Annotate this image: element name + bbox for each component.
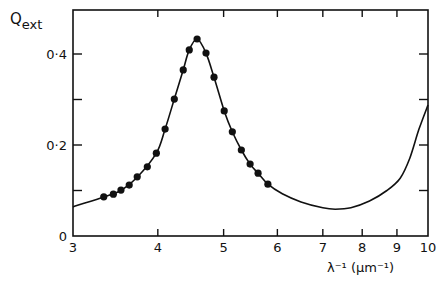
data-point [100, 193, 107, 200]
axis-ticks [73, 10, 428, 236]
y-tick-label: 0·2 [46, 138, 67, 153]
data-point [134, 173, 141, 180]
y-tick-labels: 00·20·4 [46, 47, 67, 244]
data-point [144, 163, 151, 170]
data-point [171, 95, 178, 102]
x-tick-label: 8 [358, 240, 366, 255]
x-axis-label: λ⁻¹ (μm⁻¹) [327, 260, 394, 275]
data-point [194, 35, 201, 42]
data-point [229, 128, 236, 135]
plot-frame [73, 10, 428, 236]
data-point [153, 150, 160, 157]
data-point [221, 107, 228, 114]
x-tick-label: 3 [69, 240, 77, 255]
data-point [117, 186, 124, 193]
data-point [247, 161, 254, 168]
plot-border [73, 10, 428, 236]
y-tick-label: 0 [59, 229, 67, 244]
data-point [186, 46, 193, 53]
data-point [210, 74, 217, 81]
data-point [238, 146, 245, 153]
x-tick-labels: 345678910 [69, 240, 436, 255]
x-tick-label: 7 [319, 240, 327, 255]
x-tick-label: 9 [393, 240, 401, 255]
data-point [126, 181, 133, 188]
x-tick-label: 6 [273, 240, 281, 255]
extinction-efficiency-chart: 345678910 00·20·4 Qext λ⁻¹ (μm⁻¹) [0, 0, 442, 286]
data-point [202, 49, 209, 56]
x-tick-label: 5 [219, 240, 227, 255]
y-axis-label: Qext [10, 10, 42, 32]
data-point [162, 125, 169, 132]
data-point [180, 66, 187, 73]
data-point [264, 181, 271, 188]
y-tick-label: 0·4 [46, 47, 67, 62]
data-point [110, 191, 117, 198]
x-tick-label: 10 [420, 240, 437, 255]
data-point [254, 170, 261, 177]
x-tick-label: 4 [154, 240, 162, 255]
